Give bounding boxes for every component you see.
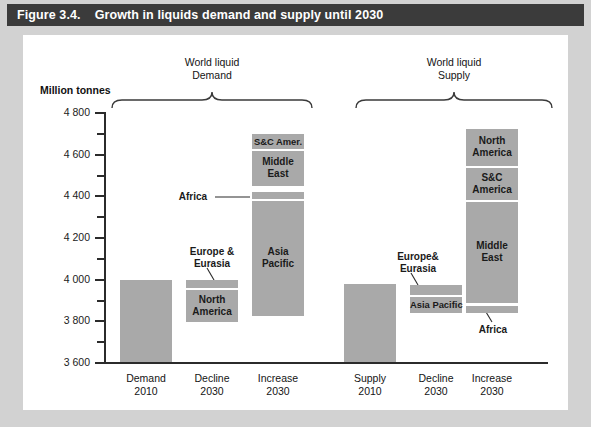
- chart-panel: [23, 35, 568, 410]
- figure-title-bar: Figure 3.4. Growth in liquids demand and…: [7, 4, 584, 26]
- figure-number: Figure 3.4.: [17, 8, 81, 22]
- figure-title: Growth in liquids demand and supply unti…: [95, 8, 384, 22]
- figure-container: Figure 3.4. Growth in liquids demand and…: [0, 0, 591, 427]
